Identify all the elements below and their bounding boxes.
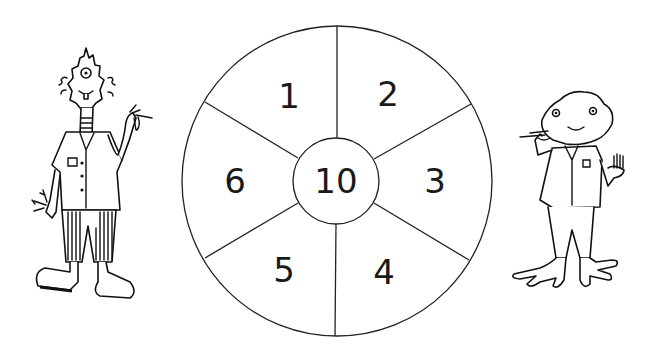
segment-4-label: 4 — [373, 252, 395, 292]
dartboard: 1 2 3 4 5 6 10 — [182, 26, 492, 336]
segment-1-label: 1 — [278, 76, 300, 116]
divider-4-5 — [335, 224, 336, 336]
illustration: 1 2 3 4 5 6 10 — [0, 0, 656, 358]
right-alien-illustration — [513, 92, 624, 287]
bullseye-label: 10 — [314, 161, 357, 201]
left-alien-illustration — [32, 48, 152, 298]
segment-3-label: 3 — [424, 161, 446, 201]
segment-5-label: 5 — [273, 250, 295, 290]
segment-6-label: 6 — [224, 161, 246, 201]
segment-2-label: 2 — [377, 74, 399, 114]
